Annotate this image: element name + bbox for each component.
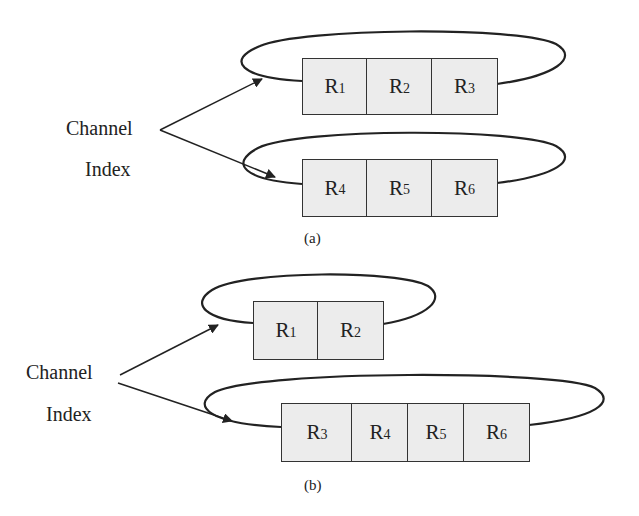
arrow-b-to-channel2 bbox=[118, 383, 232, 421]
arrow-a-to-channel1 bbox=[160, 79, 262, 130]
register-box: R3 bbox=[281, 403, 353, 462]
arrow-b-to-channel1 bbox=[120, 325, 218, 375]
register-box: R1 bbox=[302, 58, 368, 115]
register-box: R5 bbox=[366, 159, 433, 217]
arrow-a-to-channel2 bbox=[160, 130, 275, 177]
caption-a: (a) bbox=[304, 231, 321, 246]
channel-index-label-b-line2: Index bbox=[46, 404, 92, 424]
register-box: R2 bbox=[317, 301, 384, 360]
register-box: R6 bbox=[431, 159, 498, 217]
caption-b: (b) bbox=[304, 478, 322, 493]
register-box: R1 bbox=[253, 301, 319, 360]
channel-index-label-a-line2: Index bbox=[85, 159, 131, 179]
channel-index-label-b-line1: Channel bbox=[26, 362, 93, 382]
register-box: R4 bbox=[302, 159, 368, 217]
register-box: R6 bbox=[463, 403, 530, 462]
register-box: R5 bbox=[407, 403, 465, 462]
register-box: R2 bbox=[366, 58, 433, 115]
channel-index-label-a-line1: Channel bbox=[66, 118, 133, 138]
register-box: R4 bbox=[351, 403, 409, 462]
register-box: R3 bbox=[431, 58, 498, 115]
